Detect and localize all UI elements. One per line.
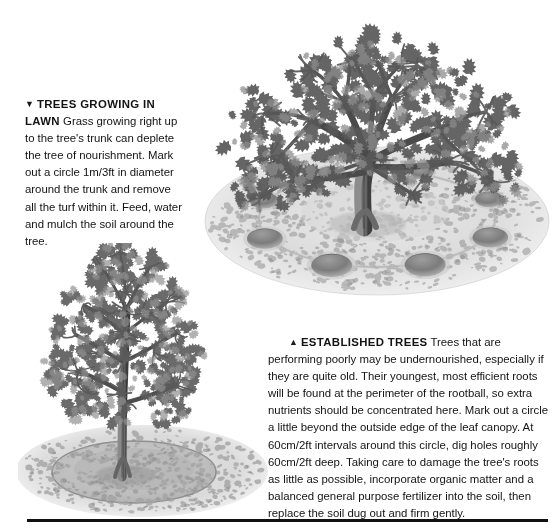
trees-growing-in-lawn-text-block: ▼TREES GROWING IN LAWN Grass growing rig…	[25, 96, 183, 250]
tree-in-lawn-with-cleared-circle-illustration	[18, 243, 280, 523]
established-body: Trees that are performing poorly may be …	[268, 336, 548, 519]
lawn-body: Grass growing right up to the tree's tru…	[25, 115, 182, 247]
dug-hole	[307, 251, 357, 279]
established-heading: ESTABLISHED TREES	[301, 336, 428, 348]
established-trees-text-block: ▲ESTABLISHED TREES Trees that are perfor…	[268, 334, 549, 522]
document-page: ▼TREES GROWING IN LAWN Grass growing rig…	[0, 0, 558, 532]
bottom-rule	[27, 519, 548, 522]
triangle-down-icon: ▼	[25, 99, 37, 109]
triangle-up-icon: ▲	[289, 337, 301, 347]
dug-hole	[400, 251, 450, 279]
dug-hole	[469, 225, 512, 249]
